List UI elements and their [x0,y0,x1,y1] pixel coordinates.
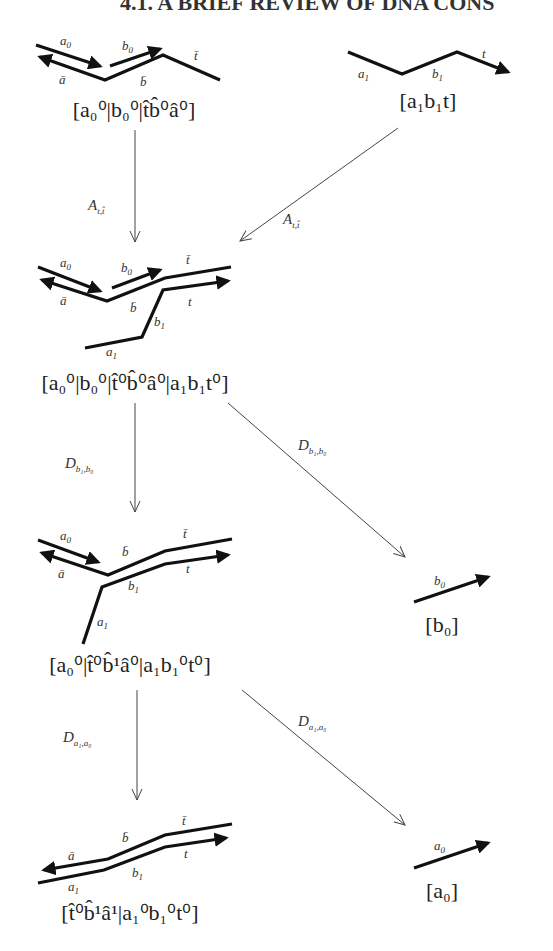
formula-s2: [a₁b₁t] [400,88,457,113]
label-tbar: t̄ [182,813,187,828]
formula-s5: [b₀] [425,612,458,637]
label-t5: Da₁,a₀ [62,729,91,748]
arrow-t4 [228,403,405,557]
state-s5-complex: b0 [b₀] [414,573,488,637]
label-a1: a1 [68,879,79,896]
formula-s1: [a₀⁰|b₀⁰|t̂b̂⁰â⁰] [73,97,195,122]
state-s1-complex: a0 b0 t̄ ā b̄ [a₀⁰|b₀⁰|t̂b̂⁰â⁰] [36,33,220,122]
label-bbar: b̄ [140,74,147,89]
transition-t3: Db₁,b₀ [64,403,135,512]
strand-b0 [112,270,160,288]
strand-a0 [414,843,488,868]
transition-t4: Db₁,b₀ [228,403,405,557]
label-b1: b1 [432,66,443,83]
arrow-t6 [242,690,405,825]
formula-s4: [a₀⁰|t̂⁰b̂¹â⁰|a₁b₁⁰t⁰] [49,652,211,677]
state-s3-complex: a0 b0 t̄ ā b̄ t b1 a1 [a₀⁰|b₀⁰|t̂⁰b̂⁰â⁰|… [38,252,231,395]
label-t3: Db₁,b₀ [64,455,93,474]
label-t: t [184,846,188,861]
transition-t6: Da₁,a₀ [242,690,405,825]
label-t: t [188,294,192,309]
strand-tba-complement [44,824,232,870]
label-a0: a0 [60,33,72,50]
label-tbar: t̄ [194,48,199,63]
label-tbar: t̄ [186,252,191,267]
strand-b0 [110,49,160,66]
label-bbar: b̄ [122,544,129,559]
label-t4: Db₁,b₀ [297,437,326,456]
label-t1: At,t̂ [87,197,105,216]
label-a1: a1 [106,344,117,361]
label-b1: b1 [132,865,143,882]
formula-s7: [a₀] [426,878,458,903]
label-a0: a0 [60,255,72,272]
label-a1: a1 [358,66,369,83]
state-s7-complex: a0 [a₀] [414,838,488,903]
label-abar: ā [68,848,75,863]
transition-t5: Da₁,a₀ [62,690,137,800]
label-abar: ā [58,566,65,581]
label-t6: Da₁,a₀ [297,713,326,732]
formula-s3: [a₀⁰|b₀⁰|t̂⁰b̂⁰â⁰|a₁b₁t⁰] [41,370,228,395]
strand-b0 [414,577,488,602]
formula-s6: [t̂⁰b̂¹â¹|a₁⁰b₁⁰t⁰] [61,900,198,925]
label-b0: b0 [434,573,446,590]
transition-t2: At,t̂ [240,128,398,241]
state-s6-complex: ā b̄ t̄ t b1 a1 [t̂⁰b̂¹â¹|a₁⁰b₁⁰t⁰] [38,813,232,925]
label-bbar: b̄ [122,830,129,845]
label-abar: ā [59,72,66,87]
label-t2: At,t̂ [282,211,300,230]
label-t: t [186,561,190,576]
label-a1: a1 [97,614,108,631]
transition-t1: At,t̂ [87,130,135,242]
arrow-t2 [240,128,398,241]
label-bbar: b̄ [130,300,137,315]
label-b1: b1 [128,578,139,595]
dna-reaction-diagram: a0 b0 t̄ ā b̄ [a₀⁰|b₀⁰|t̂b̂⁰â⁰] a1 b1 t … [0,0,553,951]
label-abar: ā [60,293,67,308]
label-b0: b0 [122,38,134,55]
state-s4-complex: a0 ā b̄ t̄ t b1 a1 [a₀⁰|t̂⁰b̂¹â⁰|a₁b₁⁰t⁰… [38,526,232,677]
state-s2-complex: a1 b1 t [a₁b₁t] [348,46,508,113]
label-tbar: t̄ [183,526,188,541]
label-a0: a0 [434,838,446,855]
label-b1: b1 [154,314,165,331]
label-a0: a0 [60,528,72,545]
label-b0: b0 [121,260,133,277]
label-t: t [482,46,486,61]
